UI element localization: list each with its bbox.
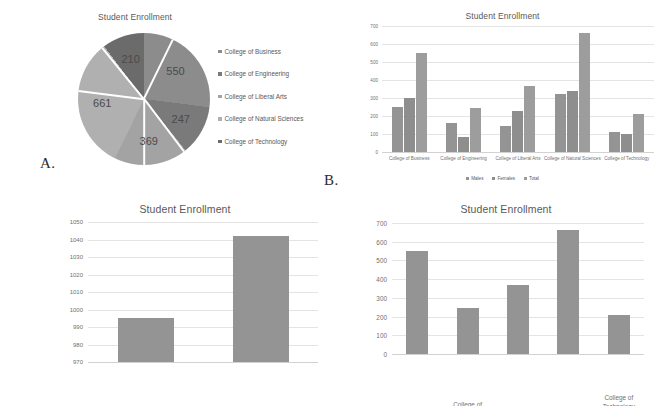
x-axis-category-label: College of Engineering <box>434 156 494 162</box>
bar[interactable] <box>416 53 427 152</box>
y-axis-tick-label: 990 <box>73 324 83 330</box>
pie-slice-value-label: 210 <box>121 53 139 65</box>
bar-group: College of Business <box>382 26 436 152</box>
bar[interactable] <box>555 94 566 152</box>
y-axis-tick-label: 1000 <box>70 307 83 313</box>
y-axis-tick-label: 100 <box>376 332 387 339</box>
legend-swatch-icon <box>218 140 222 144</box>
grouped-bar-legend: MalesFemalesTotal <box>336 176 669 181</box>
college-bar-title: Student Enrollment <box>376 203 636 215</box>
legend-swatch-icon <box>218 117 222 121</box>
panel-letter-b: B. <box>324 172 339 189</box>
legend-swatch-icon <box>218 72 222 76</box>
grouped-bar-legend-item[interactable]: Females <box>492 176 515 181</box>
gridline: 600 <box>392 242 644 243</box>
x-axis-category-label: College of Technology <box>590 394 648 406</box>
legend-swatch-icon <box>218 95 222 99</box>
y-axis-tick-label: 980 <box>73 342 83 348</box>
x-axis-category-label: College of Technology <box>597 156 657 162</box>
x-axis-category-label: College of Liberal Arts <box>488 156 548 162</box>
grouped-bar-legend-item[interactable]: Total <box>524 176 539 181</box>
legend-swatch-icon <box>492 177 495 180</box>
gridline: 0 <box>382 152 654 153</box>
pie-slice-value-label: 369 <box>140 135 158 147</box>
college-bar-plot-area: 7006005004003002001000 College of Busine… <box>392 223 644 354</box>
bar[interactable] <box>524 86 535 152</box>
y-axis-tick-label: 1010 <box>70 289 83 295</box>
y-axis-tick-label: 1040 <box>70 237 83 243</box>
gender-bar-title: Student Enrollment <box>60 203 310 215</box>
bar[interactable] <box>500 126 511 152</box>
bar-group: College of Technology <box>600 26 654 152</box>
y-axis-tick-label: 500 <box>376 257 387 264</box>
gridline: 970 <box>88 362 318 363</box>
grouped-bar-legend-item[interactable]: Males <box>466 176 483 181</box>
bar[interactable]: College of Engineering <box>457 308 479 354</box>
y-axis-tick-label: 1030 <box>70 254 83 260</box>
y-axis-tick-label: 700 <box>376 220 387 227</box>
gridline: 700 <box>392 223 644 224</box>
panel-c-bar-chart: Student Enrollment 105010401030102010101… <box>0 195 336 406</box>
pie-legend-label: College of Business <box>225 48 281 55</box>
y-axis-tick-label: 200 <box>370 114 378 119</box>
pie-slice-divider <box>143 99 145 165</box>
bar[interactable] <box>579 33 590 152</box>
y-axis-tick-label: 600 <box>370 42 378 47</box>
y-axis-tick-label: 300 <box>376 294 387 301</box>
x-axis-category-label: College of Engineering <box>439 401 497 406</box>
panel-a-pie-chart: Student Enrollment 550247369661210 Colle… <box>0 0 340 195</box>
panel-letter-a: A. <box>40 155 56 172</box>
gridline: 1050 <box>88 222 318 223</box>
pie-legend-item[interactable]: College of Engineering <box>218 63 336 86</box>
y-axis-tick-label: 0 <box>375 150 378 155</box>
pie-chart-legend: College of BusinessCollege of Engineerin… <box>218 40 336 153</box>
bar-group: College of Natural Sciences <box>545 26 599 152</box>
y-axis-tick-label: 0 <box>383 351 387 358</box>
bar[interactable]: Males <box>118 318 174 362</box>
y-axis-tick-label: 200 <box>376 313 387 320</box>
legend-swatch-icon <box>466 177 469 180</box>
bar[interactable] <box>446 123 457 152</box>
pie-legend-label: College of Natural Sciences <box>225 115 304 122</box>
panel-d-bar-chart: Student Enrollment 700600500400300200100… <box>336 195 669 406</box>
gender-bar-plot-area: 105010401030102010101000990980970 MalesF… <box>88 222 318 362</box>
y-axis-tick-label: 1050 <box>70 219 83 225</box>
gridline: 500 <box>392 260 644 261</box>
y-axis-tick-label: 1020 <box>70 272 83 278</box>
bar[interactable] <box>404 98 415 152</box>
bar[interactable] <box>633 114 644 152</box>
pie-legend-label: College of Engineering <box>225 70 290 77</box>
grouped-bar-legend-label: Total <box>529 176 539 181</box>
bar[interactable] <box>470 108 481 152</box>
gridline: 0 <box>392 354 644 355</box>
x-axis-category-label: College of Business <box>379 156 439 162</box>
grouped-bar-plot-area: 7006005004003002001000 College of Busine… <box>382 26 654 152</box>
bar[interactable]: College of Liberal Arts <box>507 285 529 354</box>
pie-legend-item[interactable]: College of Technology <box>218 130 336 153</box>
bar[interactable] <box>458 137 469 152</box>
x-axis-category-label: College of Natural Sciences <box>542 156 602 162</box>
bar[interactable]: College of Natural Sciences <box>557 230 579 354</box>
pie-slice-value-label: 550 <box>166 65 184 77</box>
bar[interactable] <box>621 134 632 152</box>
bar[interactable] <box>609 132 620 152</box>
grouped-bar-title: Student Enrollment <box>336 11 669 21</box>
bar[interactable] <box>567 91 578 152</box>
y-axis-tick-label: 500 <box>370 60 378 65</box>
grouped-bar-legend-label: Males <box>471 176 483 181</box>
bar[interactable]: Females <box>233 236 289 362</box>
y-axis-tick-label: 700 <box>370 24 378 29</box>
bar[interactable] <box>512 111 523 152</box>
y-axis-tick-label: 600 <box>376 238 387 245</box>
bar[interactable]: College of Technology <box>608 315 630 354</box>
pie-legend-item[interactable]: College of Liberal Arts <box>218 85 336 108</box>
pie-legend-item[interactable]: College of Natural Sciences <box>218 108 336 131</box>
bar[interactable]: College of Business <box>406 251 428 354</box>
legend-swatch-icon <box>218 50 222 54</box>
gridline: 400 <box>392 279 644 280</box>
bar[interactable] <box>392 107 403 152</box>
y-axis-tick-label: 970 <box>73 359 83 365</box>
bar-group: College of Liberal Arts <box>491 26 545 152</box>
pie-legend-item[interactable]: College of Business <box>218 40 336 63</box>
y-axis-tick-label: 300 <box>370 96 378 101</box>
